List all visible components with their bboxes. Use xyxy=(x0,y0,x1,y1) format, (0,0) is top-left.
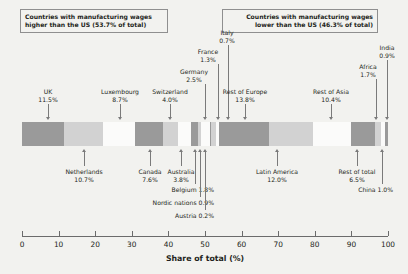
leader-line-france xyxy=(218,64,219,118)
x-tick-100 xyxy=(388,231,389,236)
leader-arrow-switzerland xyxy=(168,117,172,120)
bar-segment-germany[interactable] xyxy=(201,122,210,146)
bar-segment-latin-america[interactable] xyxy=(269,122,313,146)
x-tick-label-90: 90 xyxy=(347,240,356,249)
leader-arrow-canada xyxy=(148,149,152,152)
x-tick-label-80: 80 xyxy=(310,240,319,249)
leader-line-austria xyxy=(205,152,206,210)
leader-arrow-china xyxy=(380,149,384,152)
annotation-label-rest-of-asia: Rest of Asia 10.4% xyxy=(313,88,349,104)
x-tick-20 xyxy=(95,231,96,236)
annotation-label-canada: Canada 7.6% xyxy=(138,168,161,184)
leader-line-rest-of-asia xyxy=(331,104,332,118)
annotation-label-france: France 1.3% xyxy=(198,48,218,64)
x-tick-60 xyxy=(242,231,243,236)
leader-arrow-nordic-nations xyxy=(198,149,202,152)
leader-arrow-africa xyxy=(374,117,378,120)
leader-line-china xyxy=(382,152,383,184)
x-tick-label-70: 70 xyxy=(273,240,282,249)
bar-segment-india[interactable] xyxy=(385,122,388,146)
leader-line-africa xyxy=(376,79,377,118)
leader-line-belgium xyxy=(195,152,196,184)
x-tick-label-60: 60 xyxy=(237,240,246,249)
leader-arrow-latin-america xyxy=(275,149,279,152)
leader-arrow-luxembourg xyxy=(118,117,122,120)
leader-line-rest-of-total xyxy=(357,152,358,166)
annotation-label-austria: Austria 0.2% xyxy=(0,212,214,220)
x-tick-70 xyxy=(278,231,279,236)
leader-line-rest-of-europe xyxy=(245,104,246,118)
x-tick-label-30: 30 xyxy=(127,240,136,249)
annotation-label-rest-of-europe: Rest of Europe 13.8% xyxy=(223,88,267,104)
annotation-label-africa: Africa 1.7% xyxy=(359,63,376,79)
bar-segment-belgium[interactable] xyxy=(191,122,198,146)
annotation-label-uk: UK 11.5% xyxy=(38,88,57,104)
annotation-label-netherlands: Netherlands 10.7% xyxy=(65,168,102,184)
x-tick-label-40: 40 xyxy=(164,240,173,249)
x-tick-label-0: 0 xyxy=(20,240,25,249)
annotation-label-india: India 0.9% xyxy=(379,44,394,60)
leader-arrow-france xyxy=(216,117,220,120)
bar-segment-australia[interactable] xyxy=(178,122,192,146)
x-tick-30 xyxy=(132,231,133,236)
leader-arrow-india xyxy=(385,117,389,120)
leader-line-australia xyxy=(181,152,182,166)
x-tick-label-10: 10 xyxy=(54,240,63,249)
annotation-label-luxembourg: Luxembourg 8.7% xyxy=(101,88,139,104)
x-tick-0 xyxy=(22,231,23,236)
bar-segment-rest-of-europe[interactable] xyxy=(219,122,270,146)
annotation-label-nordic-nations: Nordic nations 0.9% xyxy=(0,199,214,207)
leader-line-india xyxy=(387,60,388,118)
leader-line-germany xyxy=(205,84,206,118)
leader-arrow-germany xyxy=(203,117,207,120)
leader-line-latin-america xyxy=(277,152,278,166)
leader-line-italy xyxy=(228,45,229,118)
annotation-label-china: China 1.0% xyxy=(0,186,393,194)
leader-line-netherlands xyxy=(84,152,85,166)
x-tick-label-20: 20 xyxy=(90,240,99,249)
bar-segment-netherlands[interactable] xyxy=(64,122,103,146)
annotation-label-rest-of-total: Rest of total 6.5% xyxy=(339,168,376,184)
leader-line-luxembourg xyxy=(120,104,121,118)
leader-arrow-netherlands xyxy=(82,149,86,152)
leader-arrow-belgium xyxy=(193,149,197,152)
bar-segment-rest-of-asia[interactable] xyxy=(313,122,351,146)
leader-arrow-rest-of-total xyxy=(355,149,359,152)
x-tick-10 xyxy=(59,231,60,236)
leader-arrow-austria xyxy=(203,149,207,152)
leader-arrow-uk xyxy=(46,117,50,120)
leader-arrow-rest-of-europe xyxy=(243,117,247,120)
annotation-label-italy: Italy 0.7% xyxy=(219,29,234,45)
bar-segment-switzerland[interactable] xyxy=(163,122,178,146)
leader-line-canada xyxy=(150,152,151,166)
x-tick-label-50: 50 xyxy=(200,240,209,249)
chart-root: Countries with manufacturing wages highe… xyxy=(0,0,408,274)
leader-line-uk xyxy=(48,104,49,118)
bar-segment-luxembourg[interactable] xyxy=(103,122,135,146)
x-tick-40 xyxy=(168,231,169,236)
bar-segment-rest-of-total[interactable] xyxy=(351,122,375,146)
x-tick-90 xyxy=(351,231,352,236)
x-tick-50 xyxy=(205,231,206,236)
annotation-label-australia: Australia 3.8% xyxy=(168,168,195,184)
leader-arrow-rest-of-asia xyxy=(329,117,333,120)
x-tick-label-100: 100 xyxy=(381,240,395,249)
stacked-bar-plot: UK 11.5%Luxembourg 8.7%Switzerland 4.0%G… xyxy=(0,0,408,274)
x-axis-title: Share of total (%) xyxy=(166,254,244,263)
annotation-label-latin-america: Latin America 12.0% xyxy=(256,168,298,184)
x-axis-line xyxy=(22,236,388,237)
bar-segment-canada[interactable] xyxy=(135,122,163,146)
leader-arrow-italy xyxy=(226,117,230,120)
leader-arrow-australia xyxy=(179,149,183,152)
annotation-label-switzerland: Switzerland 4.0% xyxy=(152,88,188,104)
leader-line-switzerland xyxy=(170,104,171,118)
x-tick-80 xyxy=(315,231,316,236)
annotation-label-germany: Germany 2.5% xyxy=(180,68,208,84)
bar-segment-uk[interactable] xyxy=(22,122,64,146)
